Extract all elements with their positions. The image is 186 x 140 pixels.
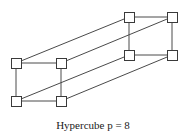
figure-caption: Hypercube p = 8	[0, 118, 186, 132]
graph-edge-n1-n5	[61, 17, 172, 63]
node-layer	[11, 12, 177, 106]
graph-node-n6[interactable]	[124, 50, 134, 60]
graph-edge-n3-n7	[61, 55, 172, 101]
edge-layer	[16, 17, 172, 101]
hypercube-figure: Hypercube p = 8	[0, 0, 186, 140]
graph-edge-n2-n6	[16, 55, 129, 101]
graph-node-n5[interactable]	[167, 12, 177, 22]
graph-node-n3[interactable]	[56, 96, 66, 106]
graph-node-n1[interactable]	[56, 58, 66, 68]
graph-node-n7[interactable]	[167, 50, 177, 60]
graph-node-n4[interactable]	[124, 12, 134, 22]
graph-edge-n0-n4	[16, 17, 129, 63]
graph-node-n2[interactable]	[11, 96, 21, 106]
graph-node-n0[interactable]	[11, 58, 21, 68]
hypercube-graph-canvas	[0, 0, 186, 118]
